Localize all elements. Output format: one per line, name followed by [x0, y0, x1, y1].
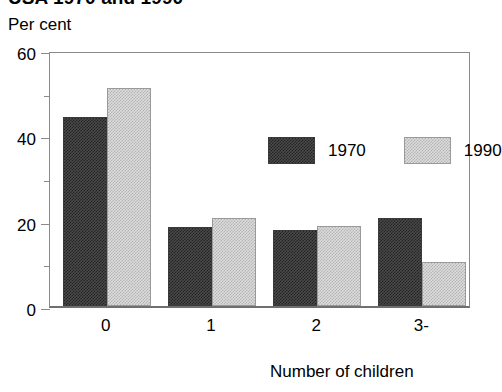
y-tick-label-40: 40: [17, 131, 36, 148]
x-tick-label-2: 2: [311, 316, 320, 336]
y-axis-label: Per cent: [8, 15, 71, 35]
x-tick-label-3-: 3-: [414, 316, 429, 336]
legend-label-1970: 1970: [328, 141, 366, 161]
legend-label-1990: 1990: [464, 141, 502, 161]
x-axis-label: Number of children: [270, 362, 414, 382]
y-tick-label-20: 20: [17, 216, 36, 233]
x-tick-label-1: 1: [206, 316, 215, 336]
y-tick-0: 0: [41, 309, 50, 310]
legend-swatch-1990: [404, 137, 451, 164]
bar-1970-children-1: [168, 227, 212, 306]
bar-1990-children-0: [107, 88, 151, 306]
y-tick-label-0: 0: [27, 302, 36, 319]
legend-swatch-1970: [268, 137, 315, 164]
bar-1990-children-1: [212, 218, 256, 306]
x-tick-label-0: 0: [101, 316, 110, 336]
bar-1990-children-3-: [422, 262, 466, 306]
y-tick-40: 40: [41, 138, 50, 139]
bar-1970-children-3-: [378, 218, 422, 306]
bar-group-container: [50, 53, 469, 306]
y-tick-60: 60: [41, 53, 50, 54]
bar-1990-children-2: [317, 226, 361, 306]
legend: 1970 1990: [268, 137, 502, 164]
legend-item-1990: 1990: [404, 137, 502, 164]
plot-area: 0204060 1970 1990: [49, 52, 470, 308]
bar-1970-children-0: [63, 117, 107, 306]
legend-item-1970: 1970: [268, 137, 366, 164]
y-tick-20: 20: [41, 224, 50, 225]
y-tick-label-60: 60: [17, 46, 36, 63]
chart-title: USA 1970 and 1990: [8, 0, 183, 9]
bar-1970-children-2: [273, 230, 317, 306]
